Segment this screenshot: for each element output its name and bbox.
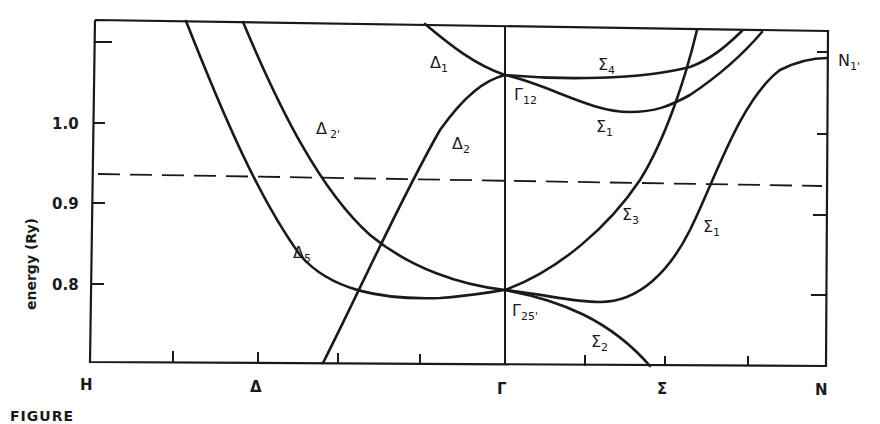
label-sigma3: Σ3 [622,205,639,227]
x-label-Gamma: Γ [497,380,507,398]
x-label-Delta: Δ [250,378,262,396]
label-sigma2: Σ2 [591,332,608,354]
y-tick-label-1-0: 1.0 [52,115,79,133]
label-delta5: Δ5 [293,243,311,265]
plot-frame [90,20,828,366]
y-tick-label-0-9: 0.9 [52,195,79,213]
label-sigma1-lower: Σ1 [703,217,720,239]
y-ticks-right [811,52,828,295]
label-gamma25p: Γ25' [512,301,538,323]
x-label-H: H [80,376,93,394]
label-delta2p: Δ2' [316,119,340,141]
band-delta5 [186,21,505,298]
band-sigma1-upper [505,32,762,112]
y-axis-label: energy (Ry) [23,218,39,310]
label-delta1: Δ1 [430,53,448,75]
x-label-Sigma: Σ [657,380,667,398]
band-delta2p [243,22,505,290]
label-sigma1-upper: Σ1 [596,117,613,139]
label-delta2: Δ2 [452,134,470,156]
label-n1p: N1' [838,51,860,73]
band-delta2 [323,75,505,363]
label-gamma12: Γ12 [514,85,537,107]
y-tick-label-0-8: 0.8 [52,276,79,294]
figure-caption: FIGURE [10,408,74,424]
x-label-N: N [815,381,828,399]
band-sigma4 [505,31,742,78]
label-sigma4: Σ4 [598,55,615,77]
